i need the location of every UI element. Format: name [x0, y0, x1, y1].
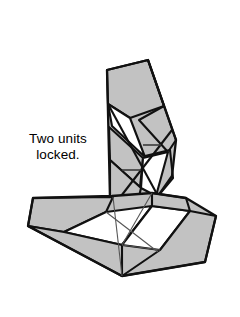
figure-root: Two units locked. [0, 0, 240, 317]
caption-line-1: Two units [12, 131, 104, 147]
caption-block: Two units locked. [12, 131, 104, 163]
caption-line-2: locked. [12, 147, 104, 163]
